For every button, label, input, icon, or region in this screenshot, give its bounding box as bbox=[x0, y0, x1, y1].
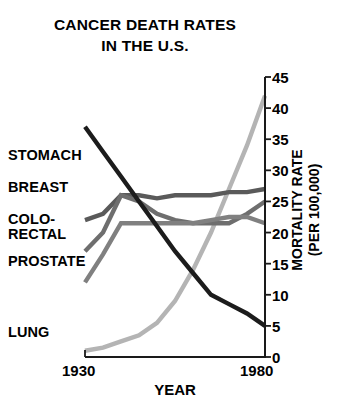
y-axis-title-line-1: MORTALITY RATE bbox=[289, 149, 306, 270]
x-tick-label-1930: 1930 bbox=[62, 362, 95, 379]
series-label-lung: LUNG bbox=[8, 325, 49, 340]
series-label-colorectal-line-1: COLO- bbox=[8, 212, 66, 227]
y-axis-title: MORTALITY RATE (PER 100,000) bbox=[289, 149, 323, 270]
x-tick-label-1980: 1980 bbox=[240, 362, 273, 379]
series-group bbox=[85, 96, 265, 351]
series-label-stomach: STOMACH bbox=[8, 148, 82, 163]
y-axis-title-wrap: MORTALITY RATE (PER 100,000) bbox=[286, 120, 326, 300]
series-label-colorectal: COLO- RECTAL bbox=[8, 212, 66, 242]
series-label-breast: BREAST bbox=[8, 180, 68, 195]
y-tick-label-5: 5 bbox=[272, 319, 280, 334]
chart-figure: CANCER DEATH RATES IN THE U.S. 45 40 35 … bbox=[0, 0, 345, 408]
series-label-colorectal-line-2: RECTAL bbox=[8, 227, 66, 242]
y-tick-label-45: 45 bbox=[272, 70, 289, 85]
x-axis-title: YEAR bbox=[85, 381, 265, 398]
series-label-prostate: PROSTATE bbox=[8, 254, 86, 269]
series-line-stomach bbox=[85, 127, 265, 326]
y-tick-label-40: 40 bbox=[272, 101, 289, 116]
y-axis-title-line-2: (PER 100,000) bbox=[306, 149, 323, 270]
